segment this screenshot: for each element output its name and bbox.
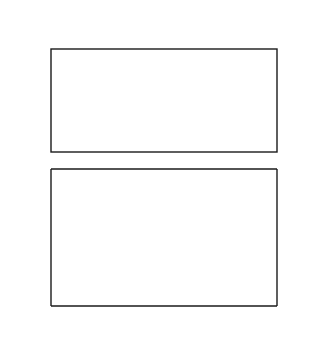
bottom-panel: [51, 169, 277, 306]
top-plot-frame: [51, 49, 277, 152]
top-panel: [51, 49, 277, 152]
chart-figure: [0, 0, 325, 354]
